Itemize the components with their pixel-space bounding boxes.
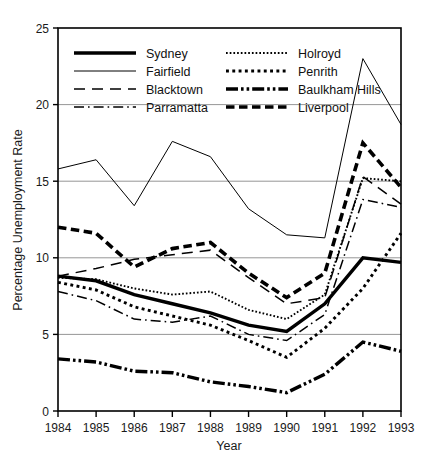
x-tick-label: 1987	[159, 421, 186, 435]
x-tick-label: 1984	[45, 421, 72, 435]
x-tick-label: 1990	[273, 421, 300, 435]
x-axis-title: Year	[216, 439, 241, 453]
x-tick-label: 1993	[388, 421, 415, 435]
legend-label: Baulkham Hills	[298, 83, 381, 97]
x-tick-label: 1991	[311, 421, 338, 435]
legend-label: Fairfield	[146, 65, 191, 79]
y-tick-label: 20	[36, 98, 50, 112]
x-tick-label: 1989	[235, 421, 262, 435]
y-axis-title: Percentage Unemployment Rate	[11, 129, 25, 310]
legend-label: Holroyd	[298, 47, 341, 61]
x-tick-label: 1988	[197, 421, 224, 435]
y-tick-label: 5	[42, 328, 49, 342]
chart-figure: 0510152025 19841985198619871988198919901…	[0, 0, 432, 458]
legend-label: Liverpool	[298, 101, 349, 115]
x-tick-label: 1985	[83, 421, 110, 435]
legend-label: Penrith	[298, 65, 338, 79]
y-tick-label: 10	[36, 251, 50, 265]
x-tick-label: 1992	[350, 421, 377, 435]
legend-label: Parramatta	[146, 101, 208, 115]
chart-canvas: 0510152025 19841985198619871988198919901…	[0, 0, 432, 458]
x-tick-label: 1986	[121, 421, 148, 435]
y-tick-label: 0	[42, 405, 49, 419]
y-tick-label: 25	[36, 22, 50, 36]
legend-label: Blacktown	[146, 83, 203, 97]
y-tick-label: 15	[36, 175, 50, 189]
legend-label: Sydney	[146, 47, 188, 61]
